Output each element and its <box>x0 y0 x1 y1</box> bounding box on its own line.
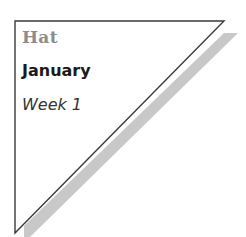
triangle-outline <box>15 21 224 233</box>
triangle-card: Hat January Week 1 <box>0 0 246 237</box>
week-label: Week 1 <box>22 97 82 113</box>
month-label: January <box>22 63 91 79</box>
category-label: Hat <box>22 29 58 46</box>
